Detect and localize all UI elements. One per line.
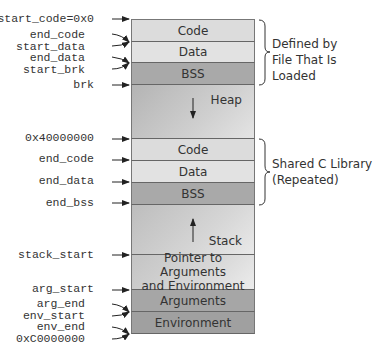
memory-layout-diagram: start_code=0x0 end_code start_data end_d… (0, 0, 384, 360)
pointer-arrows-icon (0, 0, 384, 360)
